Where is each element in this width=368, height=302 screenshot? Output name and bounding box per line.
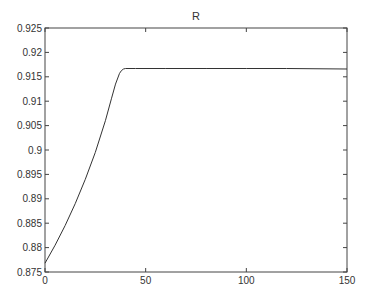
y-tick-label: 0.885 xyxy=(17,218,42,229)
y-tick-label: 0.88 xyxy=(23,242,43,253)
y-tick-label: 0.875 xyxy=(17,267,42,278)
x-tick-label: 0 xyxy=(42,275,48,286)
y-tick-label: 0.92 xyxy=(23,47,43,58)
x-tick-label: 100 xyxy=(238,275,255,286)
x-tick-label: 150 xyxy=(339,275,356,286)
plot-frame xyxy=(45,28,347,272)
line-chart: R 0.8750.880.8850.890.8950.90.9050.910.9… xyxy=(0,0,368,302)
y-tick-label: 0.925 xyxy=(17,23,42,34)
series-line-R xyxy=(45,69,347,264)
y-tick-label: 0.91 xyxy=(23,96,43,107)
y-tick-label: 0.905 xyxy=(17,120,42,131)
chart-title: R xyxy=(192,10,200,22)
x-tick-label: 50 xyxy=(140,275,152,286)
y-axis: 0.8750.880.8850.890.8950.90.9050.910.915… xyxy=(17,23,347,278)
y-tick-label: 0.89 xyxy=(23,193,43,204)
x-axis: 050100150 xyxy=(42,28,356,286)
y-tick-label: 0.9 xyxy=(28,145,42,156)
y-tick-label: 0.895 xyxy=(17,169,42,180)
y-tick-label: 0.915 xyxy=(17,71,42,82)
